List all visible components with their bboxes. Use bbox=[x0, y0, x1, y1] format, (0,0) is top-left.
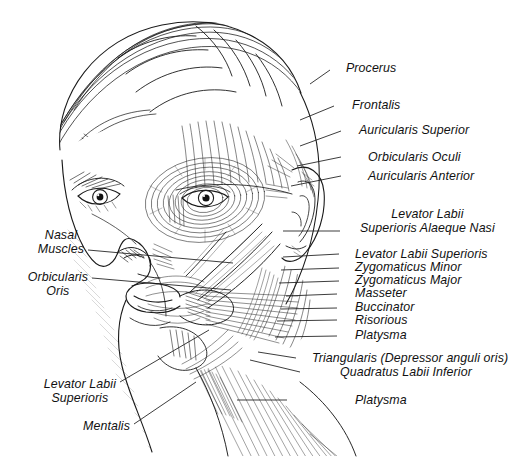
label-quadratus-labii-inferior: Quadratus Labii Inferior bbox=[340, 366, 472, 380]
label-procerus: Procerus bbox=[346, 62, 396, 76]
label-frontalis: Frontalis bbox=[352, 99, 400, 113]
label-nasal-muscles: NasalMuscles bbox=[38, 229, 84, 256]
label-platysma-upper: Platysma bbox=[355, 329, 407, 343]
label-levator-labii-alaeque-nasi: Levator LabiiSuperioris Alaeque Nasi bbox=[360, 208, 495, 235]
label-orbicularis-oris: OrbicularisOris bbox=[28, 271, 88, 298]
label-risorious: Risorious bbox=[355, 314, 408, 328]
label-masseter: Masseter bbox=[355, 287, 407, 301]
label-triangularis: Triangularis (Depressor anguli oris) bbox=[312, 352, 508, 366]
label-orbicularis-oculi: Orbicularis Oculi bbox=[368, 151, 461, 165]
label-levator-labii-superioris-l: Levator LabiiSuperioris bbox=[44, 378, 116, 405]
label-platysma-lower: Platysma bbox=[355, 394, 407, 408]
label-auricularis-superior: Auricularis Superior bbox=[359, 124, 469, 138]
label-auricularis-anterior: Auricularis Anterior bbox=[368, 170, 474, 184]
label-mentalis: Mentalis bbox=[83, 420, 130, 434]
figure-canvas: ProcerusFrontalisAuricularis SuperiorOrb… bbox=[0, 0, 522, 470]
